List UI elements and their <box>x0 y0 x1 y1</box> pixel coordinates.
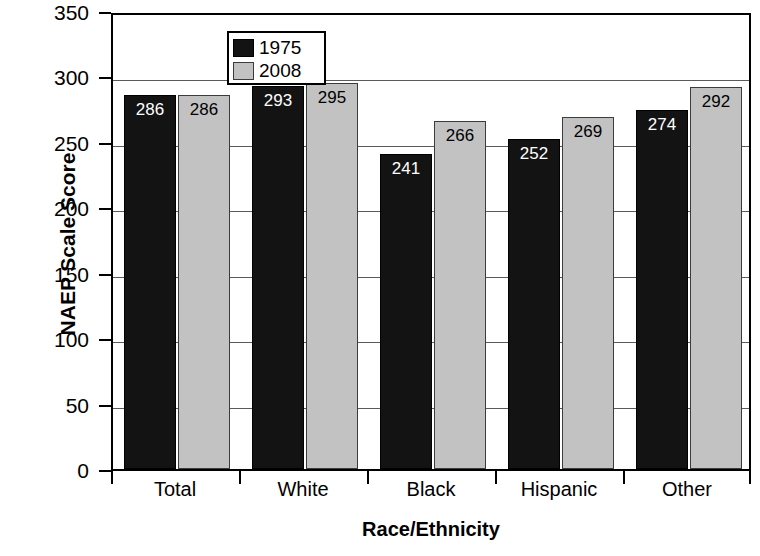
bar-value-label: 292 <box>691 93 741 110</box>
bar-value-label: 269 <box>563 123 613 140</box>
x-category-label-hispanic: Hispanic <box>495 478 623 501</box>
y-tick-label: 300 <box>0 66 97 90</box>
bar-value-label: 295 <box>307 89 357 106</box>
bar-total-2008: 286 <box>178 95 230 469</box>
bar-other-1975: 274 <box>636 110 688 469</box>
legend-entry-1975: 1975 <box>233 36 320 59</box>
legend-label-1975: 1975 <box>259 38 301 57</box>
x-category-label-other: Other <box>623 478 751 501</box>
legend: 1975 2008 <box>227 31 326 85</box>
legend-label-2008: 2008 <box>259 61 301 80</box>
bar-value-label: 274 <box>637 116 687 133</box>
plot-area: 286286293295241266252269274292 1975 2008 <box>111 13 751 471</box>
bar-value-label: 266 <box>435 127 485 144</box>
legend-entry-2008: 2008 <box>233 59 320 82</box>
bar-hispanic-2008: 269 <box>562 117 614 469</box>
y-tick-label: 100 <box>0 328 97 352</box>
bar-black-1975: 241 <box>380 154 432 469</box>
y-tick-label: 250 <box>0 132 97 156</box>
bar-value-label: 293 <box>253 92 303 109</box>
bars-layer: 286286293295241266252269274292 <box>113 15 749 469</box>
bar-white-2008: 295 <box>306 83 358 469</box>
y-tick-label: 0 <box>0 459 97 483</box>
x-category-label-black: Black <box>367 478 495 501</box>
bar-total-1975: 286 <box>124 95 176 469</box>
black-swatch-icon <box>233 39 254 57</box>
y-tick: 0 <box>0 471 97 472</box>
bar-value-label: 252 <box>509 145 559 162</box>
y-tick-mark <box>99 339 111 341</box>
y-tick: 300 <box>0 78 97 79</box>
bar-chart: NAEP Scale Score 050100150200250300350 2… <box>0 0 760 556</box>
bar-value-label: 286 <box>179 101 229 118</box>
y-tick-label: 150 <box>0 263 97 287</box>
y-tick-mark <box>99 470 111 472</box>
bar-value-label: 241 <box>381 160 431 177</box>
bar-black-2008: 266 <box>434 121 486 469</box>
y-tick-label: 350 <box>0 1 97 25</box>
y-tick: 150 <box>0 275 97 276</box>
x-category-label-white: White <box>239 478 367 501</box>
y-tick-mark <box>99 77 111 79</box>
x-tick-mark <box>367 471 369 484</box>
bar-other-2008: 292 <box>690 87 742 469</box>
bar-white-1975: 293 <box>252 86 304 469</box>
x-tick-mark <box>749 471 751 484</box>
y-tick-mark <box>99 208 111 210</box>
bar-hispanic-1975: 252 <box>508 139 560 469</box>
y-tick-mark <box>99 12 111 14</box>
x-axis-title: Race/Ethnicity <box>111 518 751 541</box>
y-tick-label: 50 <box>0 394 97 418</box>
bar-value-label: 286 <box>125 101 175 118</box>
y-tick: 250 <box>0 144 97 145</box>
y-tick: 200 <box>0 209 97 210</box>
x-category-label-total: Total <box>111 478 239 501</box>
y-tick: 100 <box>0 340 97 341</box>
y-tick-mark <box>99 274 111 276</box>
x-tick-mark <box>495 471 497 484</box>
y-tick-mark <box>99 143 111 145</box>
x-tick-mark <box>239 471 241 484</box>
gray-swatch-icon <box>233 62 254 80</box>
x-tick-mark <box>111 471 113 484</box>
y-tick-label: 200 <box>0 197 97 221</box>
x-tick-mark <box>623 471 625 484</box>
y-tick: 50 <box>0 406 97 407</box>
y-tick-mark <box>99 405 111 407</box>
y-tick: 350 <box>0 13 97 14</box>
